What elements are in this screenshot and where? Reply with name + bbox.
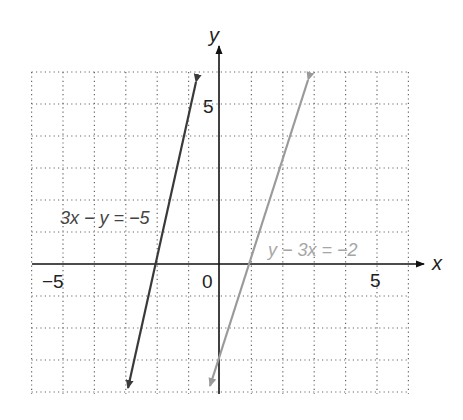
tick-label-5: 5 bbox=[370, 270, 381, 291]
line1-label: 3x − y = −5 bbox=[60, 208, 151, 228]
line-3x-minus-y-eq-neg5 bbox=[128, 82, 196, 388]
grid bbox=[32, 72, 409, 394]
coordinate-plane: y x −5 0 5 5 3x − y = −5 y − 3x = −2 bbox=[0, 0, 463, 420]
tick-label-neg5: −5 bbox=[42, 271, 64, 292]
y-axis-label: y bbox=[207, 24, 220, 46]
tick-label-0: 0 bbox=[202, 271, 213, 292]
line-y-minus-3x-eq-neg2 bbox=[210, 80, 308, 386]
tick-label-y5: 5 bbox=[203, 96, 214, 117]
line2-label: y − 3x = −2 bbox=[266, 240, 358, 260]
x-axis-label: x bbox=[431, 252, 443, 274]
